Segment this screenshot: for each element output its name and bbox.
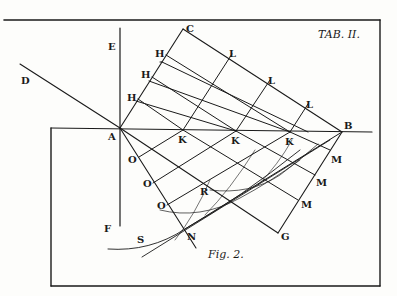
label-M1: M [331,154,342,165]
label-E: E [108,41,116,52]
edge-AC [120,29,183,128]
label-C: C [186,23,194,34]
label-H3: H [127,92,136,103]
label-S: S [137,234,144,245]
label-A: A [107,131,116,142]
label-R: R [200,186,209,197]
wavefront-line-H3 [136,101,236,131]
refracted-line-O1-K1 [139,130,183,157]
label-G: G [281,231,290,242]
refracted-line-K3-M1 [290,132,330,150]
figure-caption: Fig. 2. [207,248,244,261]
label-K2: K [231,135,240,146]
surface-line-AB [51,128,372,132]
arc-curve-2 [205,150,255,215]
label-F: F [104,223,111,234]
label-K3: K [285,136,294,147]
label-L1: L [229,48,236,59]
label-K1: K [178,134,187,145]
diagram-canvas: TAB. II. Fig. 2. E D A F C B G N R S H H… [0,0,397,296]
label-L2: L [268,75,275,86]
label-O2: O [143,178,152,189]
ray-line-H3-K1 [138,99,183,130]
label-N: N [187,231,196,242]
label-D: D [21,75,30,86]
refracted-line-O2-K2 [153,131,236,183]
label-B: B [344,120,352,131]
plate-title: TAB. II. [318,28,360,41]
label-M2: M [316,177,327,188]
incident-ray-DA [20,64,120,128]
label-O3: O [157,200,166,211]
label-H1: H [155,48,164,59]
label-L3: L [306,99,313,110]
label-O1: O [128,154,137,165]
label-M3: M [301,199,312,210]
label-H2: H [141,69,150,80]
ray-line-H2-K2 [152,77,236,131]
